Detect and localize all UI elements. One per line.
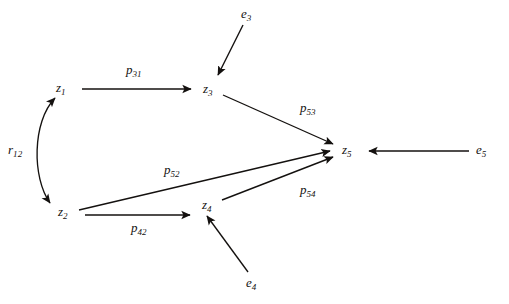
disturbance-e5: e5 [476,142,486,158]
node-z2: z2 [58,204,68,220]
node-z3-subscript: 3 [208,88,213,98]
edge-label-p31-base: p [126,62,133,77]
edge-label-p54: p54 [300,182,316,198]
path-diagram-svg [0,0,509,304]
disturbance-e3-base: e [241,6,247,21]
edge-label-p42-base: p [131,220,138,235]
node-z5: z5 [342,142,352,158]
disturbance-e3-subscript: 3 [247,13,252,23]
disturbance-e3: e3 [241,6,251,22]
disturbance-e5-subscript: 5 [482,149,487,159]
edge-p53-line [223,95,333,144]
edge-label-p53: p53 [300,100,316,116]
edge-label-p42: p42 [131,220,147,236]
edge-label-r12-subscript: 12 [13,149,22,159]
node-z2-subscript: 2 [63,211,68,221]
disturbance-e4-base: e [246,275,252,290]
edge-label-p54-base: p [300,182,307,197]
edge-r12-curve [37,98,55,203]
edge-label-p31: p31 [126,62,142,78]
disturbance-e4-subscript: 4 [252,282,257,292]
edge-label-p52-base: p [164,162,171,177]
edge-label-p54-subscript: 54 [307,189,316,199]
edge-label-p53-subscript: 53 [307,107,316,117]
node-z1: z1 [56,80,66,96]
node-z3: z3 [203,81,213,97]
edge-label-p31-subscript: 31 [133,69,142,79]
disturbance-e4: e4 [246,275,256,291]
node-z4-subscript: 4 [207,204,212,214]
node-z4: z4 [202,197,212,213]
edge-label-p52-subscript: 52 [171,169,180,179]
edge-e3-line [218,25,243,75]
node-z1-subscript: 1 [61,87,66,97]
node-z5-subscript: 5 [347,149,352,159]
edge-label-p53-base: p [300,100,307,115]
edge-e4-line [207,216,248,272]
edge-label-p42-subscript: 42 [138,227,147,237]
edge-label-r12: r12 [8,142,22,158]
edge-label-p52: p52 [164,162,180,178]
disturbance-e5-base: e [476,142,482,157]
figure-canvas: z1 z2 z3 z4 z5 e3 e4 e5 p31 p53 p52 p42 … [0,0,509,304]
